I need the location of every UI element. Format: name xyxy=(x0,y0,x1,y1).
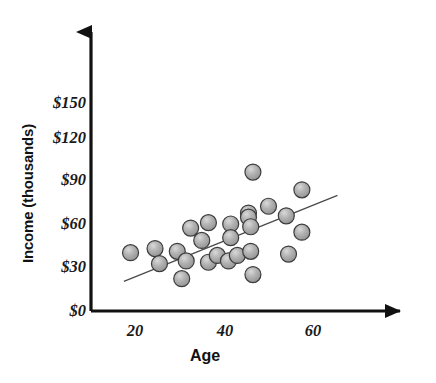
figure-caption xyxy=(6,372,336,383)
scatter-point xyxy=(294,224,310,240)
scatter-point xyxy=(278,208,294,224)
scatter-plot-figure: Income (thousands) $150 $120 $90 $60 $30… xyxy=(0,0,436,383)
scatter-point xyxy=(183,220,199,236)
scatter-point xyxy=(200,215,216,231)
scatter-point xyxy=(123,245,139,261)
scatter-point xyxy=(147,241,163,257)
scatter-markers xyxy=(123,164,310,287)
scatter-point xyxy=(223,230,239,246)
scatter-point xyxy=(194,232,210,248)
scatter-point xyxy=(245,267,261,283)
scatter-point xyxy=(174,271,190,287)
scatter-point xyxy=(178,253,194,269)
scatter-point xyxy=(243,219,259,235)
scatter-point xyxy=(243,243,259,259)
scatter-point xyxy=(281,246,297,262)
scatter-point xyxy=(151,256,167,272)
scatter-point xyxy=(294,182,310,198)
scatter-point xyxy=(261,198,277,214)
scatter-point xyxy=(245,164,261,180)
plot-canvas xyxy=(0,0,436,383)
